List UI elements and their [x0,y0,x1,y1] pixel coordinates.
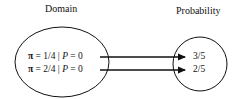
condition-var: P [62,51,68,61]
condition-value: = 0 [70,51,82,61]
domain-ellipse [15,27,109,97]
pi-symbol: π [28,64,33,74]
pi-symbol: π [28,51,33,61]
probability-label: Probability [176,6,220,16]
domain-element-1: π = 1/4 | P = 0 [28,52,83,62]
condition-var: P [62,64,68,74]
domain-element-2: π = 2/4 | P = 0 [28,65,83,75]
domain-label: Domain [45,4,77,14]
condition-value: = 0 [70,64,82,74]
pi-value: = 1/4 [36,51,56,61]
separator: | [58,51,60,61]
probability-value-1: 3/5 [193,52,205,62]
probability-value-2: 2/5 [193,65,205,75]
separator: | [58,64,60,74]
pi-value: = 2/4 [36,64,56,74]
